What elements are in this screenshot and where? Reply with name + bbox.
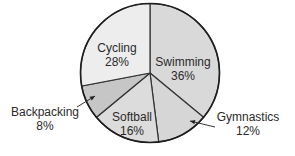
label-softball-value: 16% — [120, 124, 144, 138]
label-gymnastics-value: 12% — [236, 124, 260, 138]
label-cycling-value: 28% — [105, 55, 129, 69]
label-swimming-name: Swimming — [155, 55, 210, 69]
label-backpacking-value: 8% — [36, 119, 54, 133]
pie-chart: Swimming36%Gymnastics12%Softball16%Backp… — [0, 0, 295, 156]
label-gymnastics-name: Gymnastics — [217, 110, 280, 124]
label-cycling-name: Cycling — [97, 41, 136, 55]
label-swimming-value: 36% — [171, 69, 195, 83]
label-backpacking-name: Backpacking — [11, 105, 79, 119]
label-softball-name: Softball — [112, 110, 152, 124]
